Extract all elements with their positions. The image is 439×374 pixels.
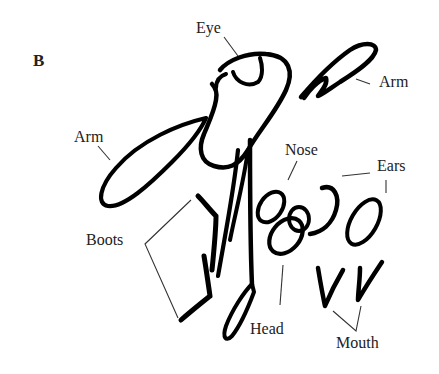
label-arm-left: Arm <box>74 129 103 145</box>
boots-leader <box>145 200 191 318</box>
eye-shape <box>233 58 262 84</box>
leg-right <box>250 140 252 285</box>
panel-label: B <box>33 52 44 69</box>
label-nose: Nose <box>285 142 318 158</box>
eye-leader <box>224 37 238 56</box>
label-ears: Ears <box>377 158 405 174</box>
label-head: Head <box>250 321 284 337</box>
left-arm-leader <box>98 146 110 160</box>
mouth-leader <box>333 306 361 331</box>
right-arm-leader <box>356 79 370 84</box>
label-arm-right: Arm <box>379 74 408 90</box>
left-arm-shape <box>101 118 206 206</box>
ears-leader-left <box>342 173 370 176</box>
mouth-v-left <box>318 268 343 306</box>
head-shape <box>262 212 309 261</box>
label-mouth: Mouth <box>336 335 379 351</box>
nose-leader <box>288 161 297 180</box>
figure-panel-b: B Eye Arm Arm Nose Ears Boots Head Mouth <box>0 0 439 374</box>
label-boots: Boots <box>86 232 123 248</box>
ear-right-shape <box>340 194 388 250</box>
mouth-v-right <box>358 262 382 300</box>
right-arm-shape <box>301 44 376 98</box>
head-leader <box>280 265 283 305</box>
label-eye: Eye <box>196 20 221 36</box>
ear-left-shape <box>310 187 337 234</box>
lower-boot <box>181 256 210 320</box>
line-drawing <box>0 0 439 374</box>
body-shape <box>201 54 290 168</box>
